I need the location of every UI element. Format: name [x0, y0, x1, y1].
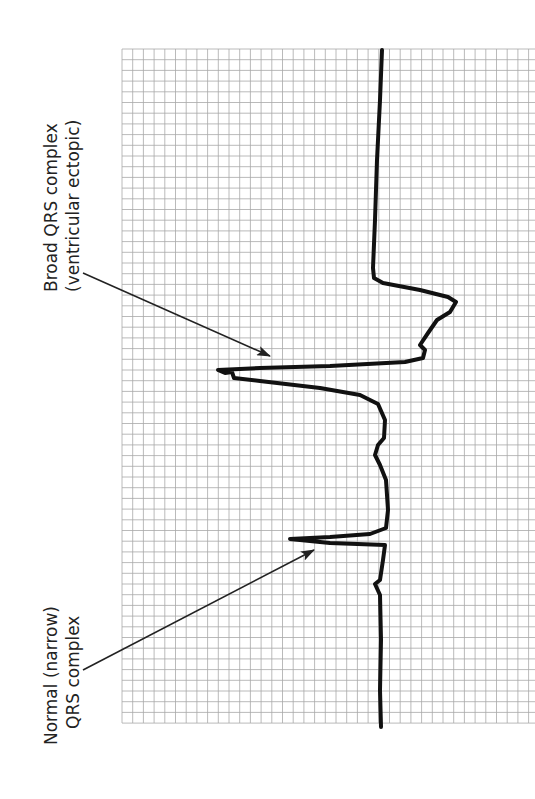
- ecg-trace: [218, 50, 456, 727]
- ecg-grid-paper: [122, 49, 535, 723]
- broad-qrs-arrow-icon: [83, 273, 270, 356]
- broad-qrs-label-line1: Broad QRS complex: [41, 123, 61, 292]
- annotation-broad-qrs: Broad QRS complex (ventricular ectopic): [41, 120, 270, 356]
- broad-qrs-label-line2: (ventricular ectopic): [63, 120, 83, 292]
- annotation-normal-qrs: Normal (narrow) QRS complex: [41, 550, 314, 745]
- normal-qrs-arrow-icon: [83, 550, 314, 670]
- normal-qrs-label-line1: Normal (narrow): [41, 606, 61, 745]
- normal-qrs-label-line2: QRS complex: [63, 616, 83, 729]
- ecg-figure: Broad QRS complex (ventricular ectopic) …: [0, 0, 535, 799]
